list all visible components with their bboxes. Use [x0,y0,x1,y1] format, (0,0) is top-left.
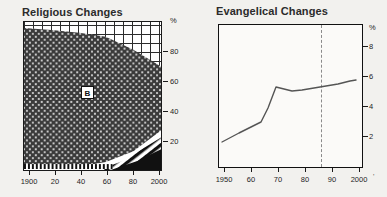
xlabel-2000: 2000 [151,177,168,186]
plot-area-religious: B [23,21,162,171]
ytick-20 [163,141,168,142]
xaxis-tail-mark: ' [373,172,374,181]
xtick-80 [133,171,134,175]
ylabel-20: 20 [170,137,178,146]
ylabel-8: 8 [369,42,373,51]
xlabel-60: 60 [247,175,255,184]
ylabel-60: 60 [170,77,178,86]
xtick-40 [81,171,82,175]
xtick-60 [107,171,108,175]
ytick-40 [163,111,168,112]
page-title-religious: Religious Changes [22,6,123,18]
xtick-1900 [29,171,30,175]
xlabel-80: 80 [129,177,137,186]
chart-panel-evangelical: Evangelical Changes % 8 6 4 2 1950 60 70… [193,0,387,197]
annotation-label-b: B [81,86,94,99]
ylabel-2: 2 [369,132,373,141]
xlabel-90: 90 [328,175,336,184]
page-title-evangelical: Evangelical Changes [216,5,328,17]
ytick-80 [163,51,168,52]
ytick-4 [363,106,368,107]
ylabel-4: 4 [369,102,373,111]
xlabel-40: 40 [77,177,85,186]
yaxis-unit-religious: % [170,16,177,25]
xtick-90 [332,168,333,172]
ytick-6 [363,76,368,77]
ylabel-40: 40 [170,107,178,116]
ytick-60 [163,81,168,82]
xlabel-80: 80 [301,175,309,184]
line-series-evangelical [219,25,361,166]
xtick-1950 [224,168,225,172]
xlabel-20: 20 [51,177,59,186]
ylabel-80: 80 [170,47,178,56]
plot-area-evangelical [218,24,363,168]
xlabel-1900: 1900 [21,177,38,186]
ytick-2 [363,136,368,137]
xtick-80 [305,168,306,172]
xlabel-60: 60 [103,177,111,186]
xtick-60 [251,168,252,172]
xlabel-70: 70 [274,175,282,184]
xlabel-2000: 2000 [351,175,368,184]
series-bottom-dashes [24,164,113,169]
xlabel-1950: 1950 [216,175,233,184]
xtick-70 [278,168,279,172]
xtick-20 [55,171,56,175]
xtick-2000 [159,171,160,175]
ytick-8 [363,46,368,47]
xtick-2000 [359,168,360,172]
ylabel-6: 6 [369,72,373,81]
yaxis-unit-evangelical: % [369,23,376,32]
chart-panel-religious: Religious Changes [0,0,193,197]
